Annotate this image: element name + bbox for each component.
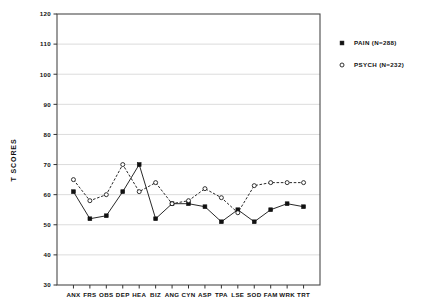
data-point-TRT <box>302 205 306 209</box>
x-axis-tick-labels-group: ANXFRSOBSDEPHEABIZANGCYNASPTPALSESODFAMW… <box>66 291 310 298</box>
data-point-ANG <box>170 202 174 206</box>
y-axis-title-group: T SCORES <box>10 139 17 182</box>
x-tick-label-CYN: CYN <box>181 291 195 298</box>
data-point-ASP <box>203 187 207 191</box>
data-point-TRT <box>302 181 306 185</box>
data-point-HEA <box>137 163 141 167</box>
x-tick-label-FRS: FRS <box>83 291 96 298</box>
y-tick-label-70: 70 <box>44 161 52 168</box>
data-point-FRS <box>88 199 92 203</box>
x-tick-label-SOD: SOD <box>247 291 262 298</box>
y-tick-label-120: 120 <box>40 10 51 17</box>
data-point-BIZ <box>154 181 158 185</box>
x-tick-label-ANX: ANX <box>66 291 81 298</box>
chart-figure: 30405060708090100110120 ANXFRSOBSDEPHEAB… <box>0 0 423 304</box>
data-point-SOD <box>252 220 256 224</box>
data-point-OBS <box>104 214 108 218</box>
x-tick-label-TPA: TPA <box>215 291 228 298</box>
data-point-LSE <box>236 211 240 215</box>
y-tick-label-60: 60 <box>44 191 52 198</box>
data-point-BIZ <box>154 217 158 221</box>
x-tick-label-BIZ: BIZ <box>150 291 161 298</box>
x-tick-label-TRT: TRT <box>297 291 310 298</box>
x-tick-label-WRK: WRK <box>279 291 295 298</box>
chart-svg: 30405060708090100110120 ANXFRSOBSDEPHEAB… <box>0 0 423 304</box>
x-tick-label-HEA: HEA <box>132 291 146 298</box>
data-point-FAM <box>269 181 273 185</box>
data-point-TPA <box>219 220 223 224</box>
y-tick-label-50: 50 <box>44 221 52 228</box>
legend-marker-filled-square-icon <box>340 41 344 45</box>
x-tick-label-ANG: ANG <box>165 291 180 298</box>
y-tick-label-80: 80 <box>44 131 52 138</box>
data-point-DEP <box>121 163 125 167</box>
x-tick-label-LSE: LSE <box>231 291 244 298</box>
data-point-OBS <box>104 193 108 197</box>
data-point-TPA <box>219 196 223 200</box>
y-tick-label-90: 90 <box>44 101 52 108</box>
x-tick-label-ASP: ASP <box>198 291 212 298</box>
data-point-FRS <box>88 217 92 221</box>
x-tick-label-DEP: DEP <box>116 291 130 298</box>
data-point-FAM <box>269 208 273 212</box>
legend-marker-open-circle-icon <box>340 63 344 67</box>
data-point-ASP <box>203 205 207 209</box>
y-tick-label-100: 100 <box>40 71 51 78</box>
x-tick-label-FAM: FAM <box>264 291 278 298</box>
legend-label-pain: PAIN (N=288) <box>354 39 397 46</box>
y-tick-label-110: 110 <box>40 40 51 47</box>
data-point-CYN <box>187 199 191 203</box>
x-tick-label-OBS: OBS <box>99 291 113 298</box>
data-point-WRK <box>285 202 289 206</box>
data-point-DEP <box>121 190 125 194</box>
data-point-SOD <box>252 184 256 188</box>
legend-label-psych: PSYCH (N=232) <box>354 61 404 68</box>
y-tick-label-30: 30 <box>44 281 52 288</box>
data-point-ANX <box>72 190 76 194</box>
data-point-ANX <box>71 178 75 182</box>
y-axis-title: T SCORES <box>10 139 17 182</box>
data-point-WRK <box>285 181 289 185</box>
y-tick-label-40: 40 <box>44 251 52 258</box>
data-point-HEA <box>137 190 141 194</box>
